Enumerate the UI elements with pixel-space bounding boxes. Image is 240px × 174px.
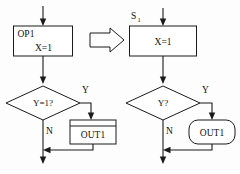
right-state-subscript: 1 — [138, 16, 141, 23]
left-yes-label: Y — [82, 85, 89, 95]
left-yes-branch-arrow — [80, 103, 94, 120]
right-yes-label: Y — [202, 85, 209, 95]
right-process-body: X=1 — [155, 37, 172, 47]
left-flowchart-group: OP1 X=1 Y=1? Y N — [6, 6, 116, 164]
right-process-to-decision-arrow — [160, 56, 166, 84]
right-decision-text: Y? — [158, 98, 169, 108]
right-yes-branch-arrow — [200, 103, 215, 120]
transform-block-arrow-icon — [90, 28, 124, 52]
right-state-label-group: S 1 — [131, 11, 141, 23]
right-state-label: S — [131, 11, 136, 21]
right-output-text: OUT1 — [200, 128, 225, 138]
left-output-merge-arrow — [43, 144, 93, 153]
flowchart-diagram: OP1 X=1 Y=1? Y N — [0, 0, 240, 174]
flowchart-canvas: OP1 X=1 Y=1? Y N — [0, 0, 240, 174]
left-process-to-decision-arrow — [40, 56, 46, 84]
left-output-text: OUT1 — [81, 130, 106, 140]
left-entry-arrow — [40, 6, 46, 26]
right-no-label: N — [166, 126, 173, 136]
right-entry-arrow — [160, 8, 166, 26]
right-output-merge-arrow — [163, 144, 212, 153]
left-no-label: N — [46, 126, 53, 136]
right-flowchart-group: S 1 X=1 Y? Y — [126, 8, 235, 164]
left-process-body: X=1 — [35, 43, 52, 53]
left-process-tag: OP1 — [18, 29, 35, 39]
left-decision-text: Y=1? — [33, 98, 53, 108]
